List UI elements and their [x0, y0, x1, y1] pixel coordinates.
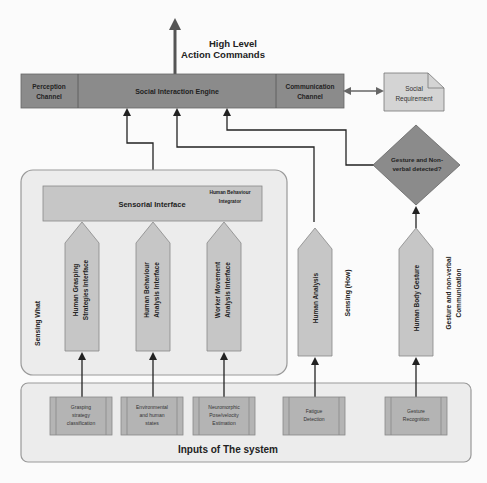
input-4-line2: Detection: [303, 416, 324, 422]
interface-1-label-1: Human Grasping: [72, 264, 80, 316]
decision-label-2: verbal detected?: [392, 165, 441, 172]
integrator-label-2: Integrator: [219, 199, 242, 204]
human-analysis-pentagon: Human Analysis: [298, 228, 332, 356]
output-label-line2: Action Commands: [181, 49, 265, 60]
system-architecture-diagram: High Level Action Commands Perception Ch…: [0, 0, 487, 483]
input-box-neuromorphic: Neuromorphic Pose/velocity Estimation: [193, 397, 255, 435]
input-1-line1: Grasping: [71, 404, 92, 410]
interface-3-label-1: Worker Movement: [214, 261, 221, 318]
perception-channel-label-1: Perception: [32, 83, 66, 91]
input-box-fatigue: Fatigue Detection: [283, 397, 345, 435]
gesture-communication-label-1: Gesture and non-verbal: [445, 256, 452, 329]
inputs-title: Inputs of The system: [178, 444, 278, 455]
interface-pentagon-worker-movement: Worker Movement Analysis Interface: [207, 222, 241, 351]
input-4-line1: Fatigue: [306, 408, 323, 414]
input-3-line1: Neuromorphic: [208, 404, 240, 410]
human-analysis-label: Human Analysis: [312, 272, 320, 323]
sensorial-interface-box: Sensorial Interface Human Behaviour Inte…: [43, 186, 262, 221]
output-label-line1: High Level: [209, 38, 257, 49]
social-requirement-document: Social Requirement: [384, 73, 444, 111]
interface-pentagon-grasping: Human Grasping Strategies Interface: [65, 222, 99, 351]
input-3-line3: Estimation: [212, 420, 236, 426]
perception-channel-label-2: Channel: [36, 93, 62, 100]
input-3-line2: Pose/velocity: [209, 412, 239, 418]
communication-channel-label-2: Channel: [297, 93, 323, 100]
input-1-line2: strategy: [72, 412, 90, 418]
sensorial-interface-label: Sensorial Interface: [118, 200, 185, 209]
sensing-what-label: Sensing What: [34, 300, 42, 346]
integrator-label-1: Human Behaviour: [209, 190, 250, 195]
input-5-line2: Recognition: [403, 416, 430, 422]
interface-pentagon-behaviour: Human Behaviour Analysis Interface: [136, 222, 170, 351]
input-box-gesture-recognition: Gesture Recognition: [385, 397, 447, 435]
sensing-how-label: Sensing (How): [344, 269, 352, 316]
input-1-line3: classification: [67, 420, 96, 426]
social-requirement-line1: Social: [405, 85, 423, 92]
interface-3-label-2: Analysis Interface: [224, 262, 232, 318]
input-box-environmental: Environmental and human states: [121, 397, 183, 435]
gesture-communication-label-2: Communication: [455, 268, 462, 317]
interface-2-label-2: Analysis Interface: [153, 262, 161, 318]
interface-1-label-2: Strategies Interface: [82, 259, 90, 320]
input-2-line2: and human: [139, 412, 164, 418]
human-body-gesture-pentagon: Human Body Gesture: [399, 228, 433, 356]
high-level-action-commands-label: High Level Action Commands: [181, 38, 265, 60]
communication-channel-label-1: Communication: [285, 83, 334, 90]
decision-label-1: Gesture and Non-: [391, 156, 443, 163]
social-interaction-engine-bar: Perception Channel Social Interaction En…: [21, 74, 344, 108]
interface-2-label-1: Human Behaviour: [143, 262, 150, 318]
input-box-grasping: Grasping strategy classification: [50, 397, 112, 435]
human-body-gesture-label: Human Body Gesture: [413, 264, 421, 331]
input-5-line1: Gesture: [407, 408, 425, 414]
input-2-line1: Environmental: [136, 404, 168, 410]
social-requirement-line2: Requirement: [395, 95, 432, 103]
social-interaction-engine-label: Social Interaction Engine: [135, 88, 219, 96]
input-2-line3: states: [145, 420, 159, 426]
gesture-detected-decision: Gesture and Non- verbal detected?: [373, 125, 460, 205]
